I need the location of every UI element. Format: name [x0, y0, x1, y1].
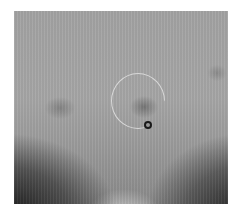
scan-image [14, 11, 228, 204]
ring-marker-icon [144, 121, 152, 129]
